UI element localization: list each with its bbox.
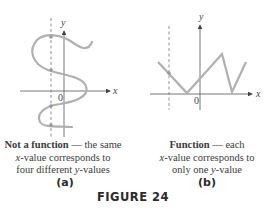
- intersection-point: [49, 35, 53, 39]
- figure-title: FIGURE 24: [0, 190, 266, 204]
- caption-a: Not a function — the same x-value corres…: [0, 139, 126, 177]
- intersection-point: [49, 123, 53, 127]
- figure-graphics: x y 0 x y 0: [0, 0, 266, 214]
- curve-b: [158, 54, 246, 93]
- caption-b-bold: Function: [169, 139, 209, 150]
- y-axis-label-b: y: [198, 11, 204, 22]
- origin-label-a: 0: [58, 92, 63, 103]
- graph-b: x y 0: [150, 11, 261, 110]
- intersection-point: [49, 68, 53, 72]
- curve-a: [32, 35, 92, 127]
- panel-label-a: (a): [48, 176, 82, 189]
- x-axis-label-a: x: [112, 85, 118, 96]
- intersection-point: [167, 71, 171, 75]
- caption-b: Function — each x-value corresponds to o…: [148, 139, 266, 177]
- caption-a-bold: Not a function: [5, 139, 69, 150]
- panel-label-b: (b): [190, 176, 224, 189]
- origin-label-b: 0: [194, 95, 199, 106]
- x-axis-label-b: x: [255, 88, 261, 99]
- graph-a: x y 0: [20, 17, 118, 137]
- intersection-point: [49, 104, 53, 108]
- y-axis-label-a: y: [60, 17, 66, 28]
